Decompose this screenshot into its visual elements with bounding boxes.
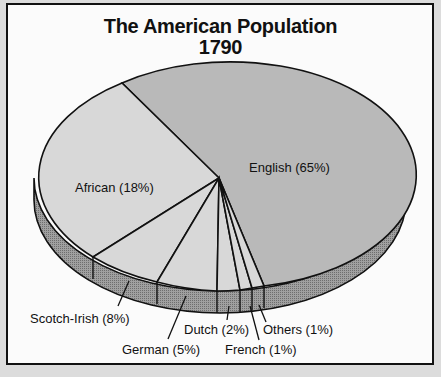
label-english: English (65%) <box>249 160 330 175</box>
label-french: French (1%) <box>225 342 297 357</box>
label-german: German (5%) <box>122 342 200 357</box>
label-scotch-irish: Scotch-Irish (8%) <box>30 311 130 326</box>
label-dutch: Dutch (2%) <box>184 322 249 337</box>
label-others: Others (1%) <box>263 322 333 337</box>
label-african: African (18%) <box>75 180 154 195</box>
